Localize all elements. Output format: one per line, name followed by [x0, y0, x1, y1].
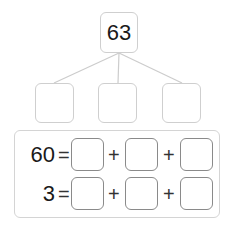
- equation-row-1: 60 = + +: [15, 138, 219, 172]
- answer-box[interactable]: [180, 138, 213, 171]
- plus-sign: +: [108, 177, 120, 211]
- equation-panel: 60 = + + 3 = + +: [14, 130, 220, 218]
- equals-sign: =: [58, 138, 70, 172]
- answer-box[interactable]: [125, 177, 158, 210]
- equation-row-2: 3 = + +: [15, 177, 219, 211]
- root-number: 63: [107, 20, 131, 46]
- answer-box[interactable]: [71, 138, 104, 171]
- child-box-2[interactable]: [98, 83, 137, 123]
- root-number-box: 63: [100, 12, 138, 53]
- answer-box[interactable]: [125, 138, 158, 171]
- plus-sign: +: [108, 138, 120, 172]
- child-box-3[interactable]: [162, 83, 201, 123]
- equation-total: 60: [5, 138, 55, 172]
- answer-box[interactable]: [71, 177, 104, 210]
- plus-sign: +: [163, 138, 175, 172]
- plus-sign: +: [163, 177, 175, 211]
- child-box-1[interactable]: [35, 83, 74, 123]
- answer-box[interactable]: [180, 177, 213, 210]
- equals-sign: =: [58, 177, 70, 211]
- equation-total: 3: [5, 177, 55, 211]
